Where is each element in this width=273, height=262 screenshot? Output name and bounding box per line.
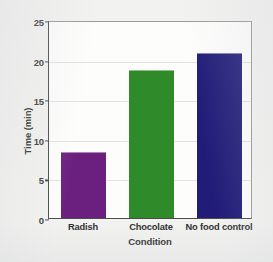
x-tick-label: No food control xyxy=(186,222,253,232)
bar-series xyxy=(49,22,251,218)
bar-chocolate xyxy=(129,70,174,218)
bar-no-food-control xyxy=(197,53,242,218)
y-tick-label: 0 xyxy=(39,215,44,226)
y-axis-label: Time (min) xyxy=(22,108,33,155)
y-tick-label: 20 xyxy=(34,56,44,67)
x-tick-label: Chocolate xyxy=(129,222,173,232)
plot-area: 0510152025 RadishChocolateNo food contro… xyxy=(48,21,252,219)
x-axis-label: Condition xyxy=(48,236,252,247)
y-tick-label: 10 xyxy=(34,135,44,146)
y-tick-label: 5 xyxy=(39,175,44,186)
x-tick-label: Radish xyxy=(68,222,98,232)
y-tick-mark xyxy=(45,219,49,220)
y-tick-label: 15 xyxy=(34,96,44,107)
bar-chart-figure: 0510152025 RadishChocolateNo food contro… xyxy=(0,0,273,262)
bar-radish xyxy=(61,152,106,218)
y-tick-label: 25 xyxy=(34,17,44,28)
